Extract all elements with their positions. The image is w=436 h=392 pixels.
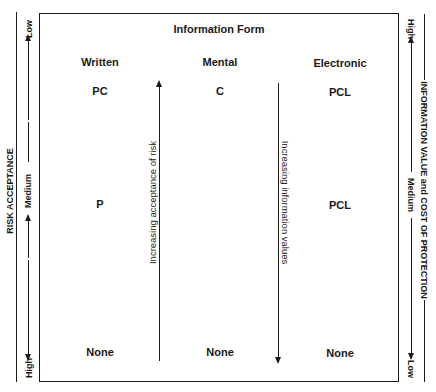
value-arrow-label: Increasing information values	[280, 133, 291, 273]
risk-arrow-label: Increasing acceptance of risk	[147, 133, 158, 273]
right-axis-title: INFORMATION VALUE and COST OF PROTECTION	[419, 80, 429, 300]
left-arrow-high	[28, 260, 29, 355]
left-axis-bottom-label: High	[24, 356, 34, 380]
right-arrow-low	[411, 218, 412, 354]
cell-written-medium: P	[60, 198, 140, 210]
left-axis-line	[16, 12, 17, 382]
left-arrow-low	[28, 40, 29, 120]
cell-electronic-medium: PCL	[300, 199, 380, 211]
cell-written-high: PC	[60, 85, 140, 97]
cell-electronic-low: None	[300, 347, 380, 359]
right-arrow-high	[411, 42, 412, 172]
cell-mental-high: C	[180, 85, 260, 97]
column-header-electronic: Electronic	[300, 57, 380, 69]
left-arrow-mid	[28, 122, 29, 162]
risk-arrow	[159, 86, 160, 361]
right-axis-top-label: High	[406, 18, 416, 40]
left-axis-middle-label: Medium	[23, 173, 33, 209]
right-axis-bottom-label: Low	[406, 358, 416, 380]
diagram-title: Information Form	[139, 23, 299, 35]
cell-written-low: None	[60, 346, 140, 358]
cell-mental-low: None	[180, 346, 260, 358]
left-arrow-mid-up	[28, 220, 29, 258]
left-axis-title: RISK ACCEPTANCE	[5, 141, 15, 241]
column-header-mental: Mental	[180, 56, 260, 68]
column-header-written: Written	[60, 56, 140, 68]
cell-electronic-high: PCL	[300, 86, 380, 98]
right-axis-middle-label: Medium	[406, 177, 416, 213]
left-axis-top-label: Low	[24, 19, 34, 39]
